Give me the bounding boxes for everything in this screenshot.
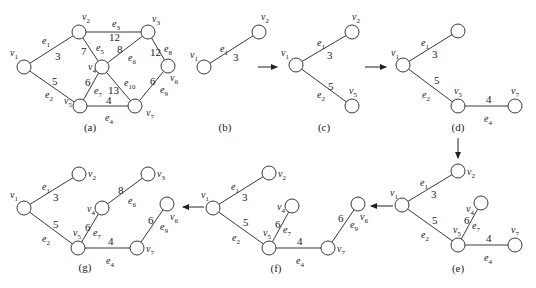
vertex-v2	[262, 166, 276, 180]
edge-label-e2: e2	[421, 229, 429, 243]
vertex-v1	[17, 60, 31, 74]
edge-label-e2: e2	[232, 232, 240, 246]
edge-weight-e5: 7	[81, 45, 87, 57]
edge-label-e9: e9	[350, 219, 358, 233]
vertex-label-v1: v1	[201, 189, 209, 203]
edge-e1	[409, 35, 452, 62]
edge-label-e1: e1	[231, 181, 239, 195]
panel-caption-c: (c)	[318, 121, 331, 134]
edge-weight-e9: 6	[148, 214, 154, 226]
edge-label-e4: e4	[296, 255, 304, 269]
edge-e2	[408, 209, 453, 241]
vertex-v2	[451, 24, 465, 38]
vertex-v7	[321, 241, 335, 255]
edge-label-e2: e2	[42, 233, 50, 247]
edge-label-e10: e10	[124, 77, 136, 91]
edge-label-e3: e3	[112, 18, 120, 32]
vertex-label-v7: v7	[146, 107, 154, 121]
vertex-v6	[160, 197, 174, 211]
edge-weight-e1: 3	[55, 50, 61, 62]
panel-c: e13e25v1v2v5(c)	[281, 11, 360, 134]
edge-weight-e7: 6	[275, 218, 281, 230]
vertex-v1	[206, 201, 220, 215]
edge-weight-e9: 6	[150, 75, 156, 87]
edge-label-e8: e8	[164, 43, 172, 57]
panel-b: e13v1v2(b)	[190, 11, 269, 134]
panel-caption-f: (f)	[271, 262, 282, 275]
vertex-v1	[289, 58, 303, 72]
edge-weight-e6: 8	[117, 43, 123, 55]
vertex-v7	[508, 238, 522, 252]
edge-weight-e1: 3	[327, 49, 333, 61]
edge-label-e1: e1	[317, 37, 325, 51]
panel-e: e13e25e76e44v1v2v4v5v7(e)	[390, 164, 522, 275]
edge-e6	[108, 178, 143, 204]
vertex-v6	[161, 59, 175, 73]
edge-label-e7: e7	[472, 220, 480, 234]
vertex-label-v7: v7	[511, 85, 519, 99]
edge-label-e6: e6	[128, 195, 136, 209]
vertex-v5	[262, 241, 276, 255]
vertex-v5	[345, 99, 359, 113]
vertex-v2	[72, 25, 86, 39]
edge-label-e1: e1	[42, 181, 50, 195]
edge-e2	[219, 212, 264, 244]
vertex-label-v1: v1	[10, 189, 18, 203]
edge-e1	[30, 178, 73, 205]
vertex-v2	[252, 25, 266, 39]
edge-label-e2: e2	[45, 89, 53, 103]
edge-label-e2: e2	[317, 89, 325, 103]
panel-f: e13e25e76e44e96v1v2v4v5v7v6(f)	[201, 166, 368, 275]
vertex-label-v6: v6	[360, 211, 368, 225]
panels-layer: e13e25e312e44e57e68e76e812e96e1013v1v2v3…	[10, 11, 522, 275]
edge-weight-e3: 12	[109, 31, 120, 43]
vertex-label-v2: v2	[467, 166, 475, 180]
edge-weight-e9: 6	[338, 212, 344, 224]
edge-label-e4: e4	[484, 113, 492, 127]
edge-weight-e2: 5	[328, 80, 334, 92]
edge-weight-e1: 3	[431, 188, 437, 200]
vertex-label-v1: v1	[10, 47, 18, 61]
vertex-label-v1: v1	[391, 47, 399, 61]
vertex-label-v3: v3	[152, 13, 160, 27]
vertex-label-v7: v7	[337, 243, 345, 257]
vertex-label-v2: v2	[88, 168, 96, 182]
edge-weight-e1: 3	[233, 51, 239, 63]
edge-label-e7: e7	[93, 227, 101, 241]
vertex-v7	[128, 99, 142, 113]
vertex-label-v6: v6	[170, 211, 178, 225]
vertex-v5	[451, 99, 465, 113]
edge-weight-e2: 5	[243, 216, 249, 228]
panel-a: e13e25e312e44e57e68e76e812e96e1013v1v2v3…	[10, 11, 178, 134]
vertex-v5	[71, 241, 85, 255]
panel-caption-a: (a)	[84, 121, 97, 134]
vertex-v1	[17, 201, 31, 215]
panel-caption-e: (e)	[452, 262, 465, 275]
edge-label-e1: e1	[220, 43, 228, 57]
vertex-v7	[508, 99, 522, 113]
edge-weight-e4: 4	[297, 235, 303, 247]
panel-caption-d: (d)	[452, 121, 465, 134]
edge-weight-e2: 5	[434, 74, 440, 86]
vertex-v7	[130, 241, 144, 255]
edge-label-e1: e1	[421, 37, 429, 51]
edge-weight-e2: 5	[53, 218, 59, 230]
edge-label-e1: e1	[42, 35, 50, 49]
edge-weight-e4: 4	[486, 93, 492, 105]
edge-label-e4: e4	[484, 252, 492, 266]
vertex-label-v5: v5	[454, 85, 462, 99]
vertex-label-v2: v2	[352, 11, 360, 25]
edge-weight-e10: 13	[108, 84, 120, 96]
vertex-v2	[451, 164, 465, 178]
vertex-label-v2: v2	[82, 11, 90, 25]
panel-g: e13e25e68e76e44e96v1v2v3v4v5v7v6(g)	[10, 167, 178, 274]
vertex-label-v5: v5	[349, 85, 357, 99]
edge-e1	[408, 175, 452, 202]
vertex-v2	[345, 25, 359, 39]
vertex-label-v2: v2	[261, 11, 269, 25]
panel-caption-b: (b)	[219, 121, 232, 134]
edge-e2	[30, 212, 73, 244]
edge-label-e4: e4	[105, 112, 113, 126]
vertex-label-v5: v5	[73, 227, 81, 241]
vertex-label-v4: v4	[87, 203, 95, 217]
